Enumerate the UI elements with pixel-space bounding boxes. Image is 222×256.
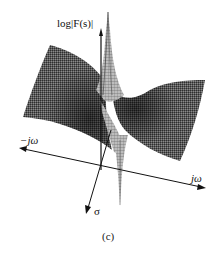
sigma-axis	[85, 130, 111, 214]
surface-right-lobe	[112, 80, 205, 161]
pos-jw-label: jω	[191, 173, 202, 184]
surface-plot	[0, 0, 222, 256]
vertical-axis-label-text: log|F(s)|	[57, 17, 93, 29]
figure-caption: (c)	[102, 230, 114, 242]
vertical-axis-label: log|F(s)|	[57, 18, 93, 29]
pole-spike	[96, 12, 124, 102]
sigma-label: σ	[94, 206, 100, 217]
neg-jw-label: −jω	[20, 135, 38, 146]
